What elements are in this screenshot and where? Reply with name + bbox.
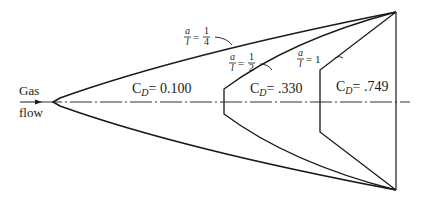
body-outline-one [320, 12, 396, 190]
ratio-label-quarter: a l = 1 4 [184, 25, 210, 47]
svg-text:l: l [299, 58, 302, 69]
svg-text:a: a [185, 25, 190, 36]
diagram-svg: Gas flow a l = 1 4 a l = 1 2 a l = 1 CD=… [0, 0, 427, 202]
cd-label-half: CD= .330 [250, 81, 302, 98]
svg-text:l: l [186, 36, 189, 47]
svg-text:2: 2 [249, 62, 254, 73]
cd-label-one: CD= .749 [336, 79, 388, 96]
svg-text:1: 1 [204, 25, 209, 36]
svg-text:a: a [298, 47, 303, 58]
ratio-label-one: a l = 1 [297, 47, 320, 69]
svg-text:= 1: = 1 [306, 53, 320, 65]
flow-label-flow: flow [19, 105, 43, 120]
leader-one [335, 57, 343, 59]
body-outline-half [224, 12, 396, 190]
drag-coefficient-diagram: Gas flow a l = 1 4 a l = 1 2 a l = 1 CD=… [0, 0, 427, 202]
svg-text:a: a [230, 51, 235, 62]
flow-arrow-head-icon [35, 100, 42, 105]
flow-label-gas: Gas [19, 83, 39, 98]
svg-text:1: 1 [249, 51, 254, 62]
svg-text:=: = [193, 31, 199, 43]
svg-text:4: 4 [204, 36, 209, 47]
leader-quarter [215, 37, 232, 45]
ratio-label-half: a l = 1 2 [229, 51, 255, 73]
svg-text:=: = [238, 57, 244, 69]
cd-label-quarter: CD= 0.100 [132, 81, 191, 98]
svg-text:l: l [231, 62, 234, 73]
